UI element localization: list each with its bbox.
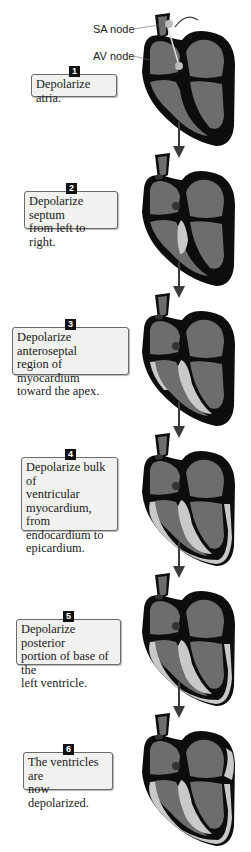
sa-node (155, 175, 163, 180)
down-arrow-head (173, 566, 185, 578)
down-arrow-head (173, 426, 185, 438)
sa-node (155, 455, 163, 460)
heart-3 (142, 293, 235, 438)
down-arrow-head (173, 706, 185, 718)
sa-node (155, 735, 163, 740)
av-node (175, 62, 183, 70)
av-node (172, 482, 180, 490)
down-arrow-head (173, 286, 185, 298)
av-node (172, 762, 180, 770)
av-node (172, 622, 180, 630)
heart-diagrams (0, 0, 251, 852)
atrial-arrow (175, 17, 198, 27)
sa-node (165, 20, 173, 28)
heart-6 (142, 713, 235, 846)
heart-2 (142, 153, 235, 298)
av-node (172, 342, 180, 350)
sa-node (155, 595, 163, 600)
heart-5 (142, 573, 235, 718)
down-arrow-head (173, 146, 185, 158)
heart-1 (133, 13, 235, 158)
sa-node (155, 315, 163, 320)
av-node (172, 202, 180, 210)
heart-4 (142, 433, 235, 578)
